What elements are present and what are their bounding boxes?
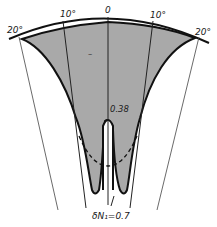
label-right-20: 20° bbox=[195, 27, 211, 37]
label-left-10: 10° bbox=[60, 9, 76, 19]
label-right-10: 10° bbox=[150, 10, 166, 20]
value-label: 0.38 bbox=[110, 104, 130, 114]
sector-diagram: 20° 10° 0 10° 20° – 0.38 δN₁=0.7 bbox=[0, 0, 217, 227]
minus-sign: – bbox=[88, 49, 92, 59]
label-left-20: 20° bbox=[7, 25, 23, 35]
label-center-0: 0 bbox=[105, 5, 111, 15]
leader-line bbox=[111, 196, 114, 206]
delta-label: δN₁=0.7 bbox=[92, 211, 130, 221]
